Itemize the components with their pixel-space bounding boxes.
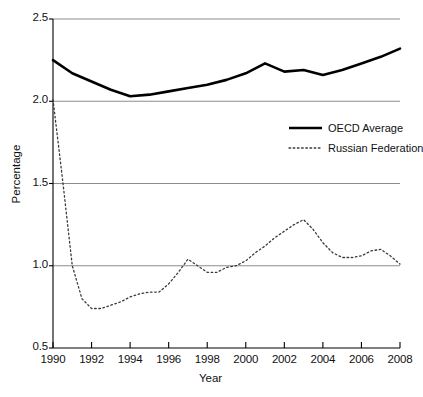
x-axis-title: Year — [0, 372, 421, 384]
x-tick-label: 2006 — [339, 353, 383, 365]
x-tick-label: 1998 — [185, 353, 229, 365]
legend-label-oecd-average: OECD Average — [328, 122, 403, 134]
x-tick-label: 2002 — [262, 353, 306, 365]
x-tick-label: 1994 — [108, 353, 152, 365]
data-series — [53, 49, 400, 309]
y-axis-title: Percentage — [10, 114, 22, 234]
x-tick-label: 1992 — [70, 353, 114, 365]
y-tick-label: 2.0 — [8, 93, 48, 105]
y-tick-label: 2.5 — [8, 11, 48, 23]
x-tick-label: 1990 — [31, 353, 75, 365]
y-tick-label: 1.0 — [8, 258, 48, 270]
x-tick-label: 2000 — [224, 353, 268, 365]
legend-label-russian-federation: Russian Federation — [328, 142, 423, 154]
x-tick-label: 2008 — [378, 353, 422, 365]
legend-swatches — [289, 128, 322, 148]
x-tick-label: 2004 — [301, 353, 345, 365]
y-tick-label: 0.5 — [8, 340, 48, 352]
x-tick-marks — [53, 342, 400, 348]
y-tick-marks — [49, 19, 53, 348]
x-tick-label: 1996 — [147, 353, 191, 365]
